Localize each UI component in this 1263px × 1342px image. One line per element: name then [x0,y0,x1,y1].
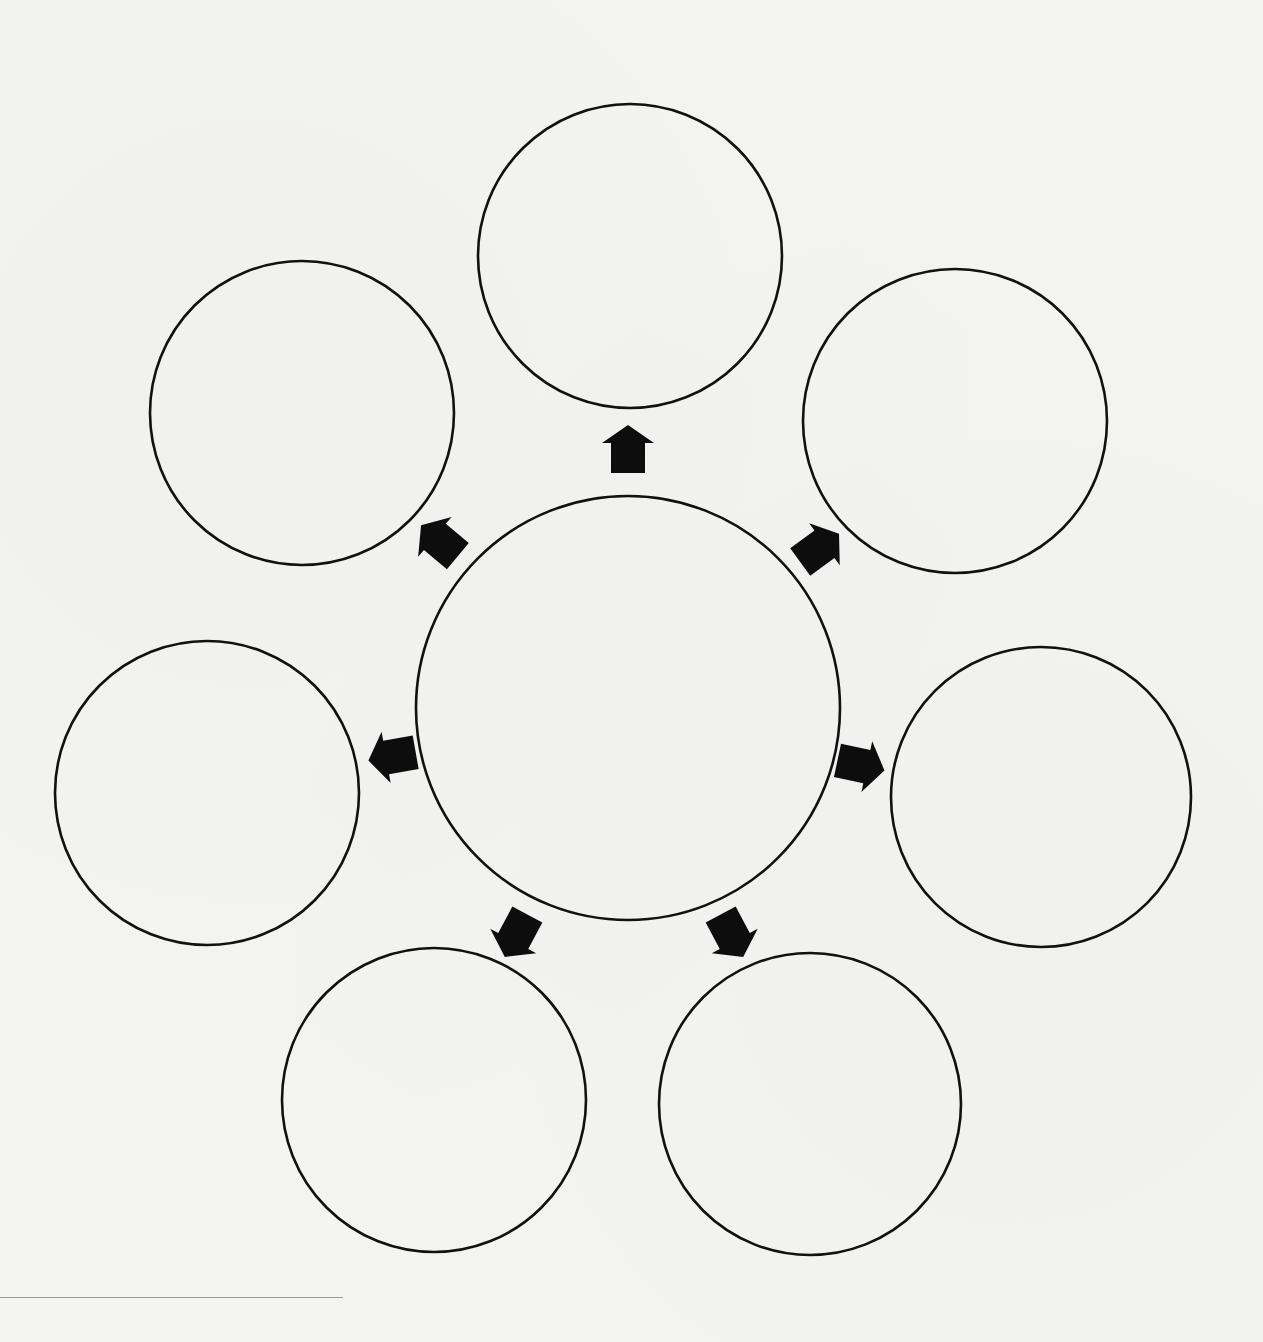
center-node-circle [416,496,840,920]
satellite-node-lower-right [659,953,961,1255]
hub-spoke-diagram [0,0,1263,1342]
satellite-node-top [478,104,782,408]
footnote-divider [0,1297,343,1298]
satellite-node-left [55,641,359,945]
satellite-node-lower-right-circle [659,953,961,1255]
arrow-to-lower-right-icon [698,902,766,969]
satellite-node-lower-left [282,948,586,1252]
arrows-layer [364,425,890,969]
arrow-to-right-icon [832,735,890,796]
satellite-node-right-circle [891,647,1191,947]
satellite-node-upper-left-circle [150,261,454,565]
arrow-to-left-icon [364,727,420,787]
satellite-node-upper-right [803,269,1107,573]
satellite-node-top-circle [478,104,782,408]
satellite-node-right [891,647,1191,947]
arrow-to-top-icon [602,425,654,473]
satellite-node-upper-left [150,261,454,565]
circles-layer [55,104,1191,1255]
center-node [416,496,840,920]
satellite-node-upper-right-circle [803,269,1107,573]
satellite-node-lower-left-circle [282,948,586,1252]
diagram-page [0,0,1263,1342]
satellite-node-left-circle [55,641,359,945]
